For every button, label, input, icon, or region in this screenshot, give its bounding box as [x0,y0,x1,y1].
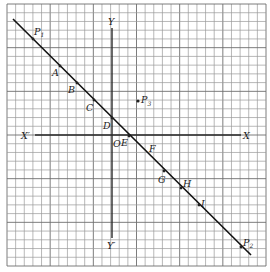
label-p1: P1 [33,26,44,38]
label-c: C [86,102,94,113]
label-h: H [182,178,192,189]
label-i: I [200,198,205,209]
label-p2: P2 [242,237,253,249]
label-b: B [67,84,75,95]
point-g-marker [163,170,166,173]
coordinate-diagram: Y Y′ X X′ O P1 A B C D E F G H I P2 P3 [0,0,270,272]
label-f: F [148,143,156,154]
label-e: E [120,137,128,148]
point-p1-marker [32,38,35,41]
point-b-marker [76,82,79,85]
label-y-prime: Y′ [107,240,116,251]
point-e2-marker [128,135,131,138]
point-c-marker [93,99,96,102]
label-x: X [242,130,251,141]
point-i-marker [198,204,201,207]
point-p3-marker [136,99,139,102]
label-a: A [51,67,59,78]
point-d-marker [111,117,114,120]
label-g: G [158,174,166,185]
point-h-marker [180,187,183,190]
point-p2-marker [240,246,243,249]
label-origin: O [113,138,121,149]
label-x-prime: X′ [20,130,31,141]
label-d: D [102,120,111,131]
point-a-marker [59,65,62,68]
label-p3: P3 [140,94,151,107]
line-p1-p2 [13,19,251,255]
